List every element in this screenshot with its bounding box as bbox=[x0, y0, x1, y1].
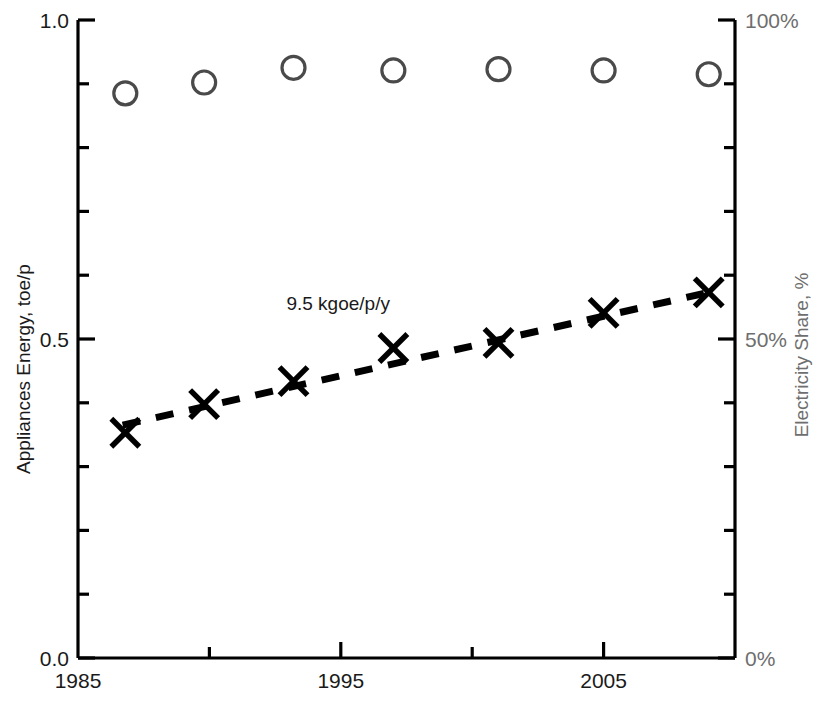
right-axis-title: Electricity Share, % bbox=[791, 273, 812, 438]
x-tick-label: 2005 bbox=[580, 669, 627, 692]
x-tick-label: 1995 bbox=[317, 669, 364, 692]
y2-tick-label: 100% bbox=[745, 9, 799, 32]
annotation-label: 9.5 kgoe/p/y bbox=[286, 293, 390, 314]
y-tick-label: 1.0 bbox=[40, 9, 69, 32]
y2-tick-label: 50% bbox=[745, 328, 787, 351]
y-tick-label: 0.5 bbox=[40, 328, 69, 351]
trend-annotation: 9.5 kgoe/p/y bbox=[286, 293, 390, 314]
scatter-chart: 0.00.51.0 0%50%100% 198519952005 9.5 kgo… bbox=[0, 0, 825, 703]
y2-tick-label: 0% bbox=[745, 647, 775, 670]
y-tick-label: 0.0 bbox=[40, 647, 69, 670]
left-axis-title: Appliances Energy, toe/p bbox=[13, 264, 34, 474]
x-tick-label: 1985 bbox=[55, 669, 102, 692]
chart-container: 0.00.51.0 0%50%100% 198519952005 9.5 kgo… bbox=[0, 0, 825, 703]
